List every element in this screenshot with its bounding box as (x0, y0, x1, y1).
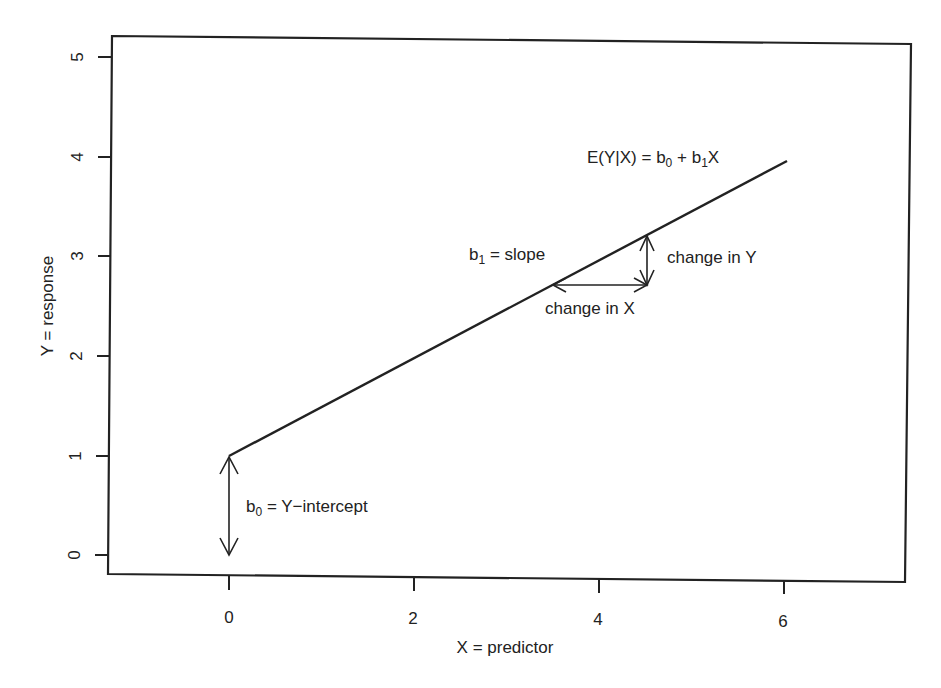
change-in-x-label: change in X (545, 299, 635, 319)
x-tick-label: 4 (593, 610, 602, 630)
y-tick-label: 1 (66, 451, 86, 460)
y-tick-label: 5 (68, 52, 88, 61)
change-in-x-arrow (553, 278, 647, 292)
y-tick-label: 4 (68, 152, 88, 161)
change-in-y-label: change in Y (667, 248, 756, 268)
regression-chart (0, 0, 941, 688)
y-tick-label: 2 (67, 351, 87, 360)
intercept-arrow (220, 457, 238, 555)
regression-equation-label: E(Y|X) = b0 + b1X (587, 148, 719, 168)
y-tick-label: 0 (65, 550, 85, 559)
x-tick-label: 0 (224, 608, 233, 628)
x-axis-title: X = predictor (457, 638, 554, 658)
change-in-y-arrow (640, 236, 654, 285)
y-axis-title: Y = response (38, 256, 58, 356)
regression-line (229, 161, 787, 456)
y-tick-label: 3 (68, 251, 88, 260)
x-tick-label: 2 (408, 609, 417, 629)
x-tick-label: 6 (778, 612, 787, 632)
slope-label: b1 = slope (469, 245, 545, 265)
intercept-label: b0 = Y−intercept (246, 497, 368, 517)
